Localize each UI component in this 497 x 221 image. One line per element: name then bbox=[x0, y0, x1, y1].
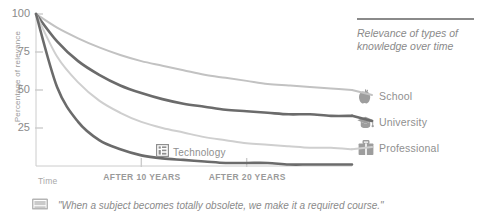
legend-item-professional[interactable]: Professional bbox=[357, 135, 497, 161]
chart-line-university bbox=[36, 14, 352, 116]
title-divider bbox=[357, 18, 474, 20]
legend-item-label: School bbox=[379, 90, 412, 102]
caption-text: "When a subject becomes totally obsolete… bbox=[58, 200, 384, 211]
y-tick-labels: 100755025 bbox=[0, 0, 30, 190]
legend-item-school[interactable]: School bbox=[357, 83, 497, 109]
chart-line-technology bbox=[36, 14, 352, 165]
y-tick-label: 100 bbox=[4, 8, 30, 19]
chart-series-group bbox=[36, 14, 352, 165]
graduation-cap-icon bbox=[357, 113, 374, 132]
book-icon bbox=[32, 196, 48, 214]
legend-item-label: Professional bbox=[379, 142, 439, 154]
x-axis-title: Time bbox=[38, 176, 57, 186]
chart-svg bbox=[0, 0, 360, 190]
y-tick-label: 25 bbox=[4, 122, 30, 133]
legend-item-university[interactable]: University bbox=[357, 109, 497, 135]
briefcase-icon bbox=[357, 139, 374, 158]
x-tick-label: AFTER 20 YEARS bbox=[209, 172, 285, 182]
chart-line-school bbox=[36, 14, 352, 90]
technology-label-text: Technology bbox=[173, 147, 226, 158]
chart-plot-area: Percentage of relevance 100755025 AFTER … bbox=[0, 0, 360, 190]
legend-item-label: University bbox=[379, 116, 427, 128]
y-tick-label: 75 bbox=[4, 46, 30, 57]
chart-legend: SchoolUniversityProfessional bbox=[357, 83, 497, 161]
technology-inline-label: Technology bbox=[156, 143, 226, 161]
caption-row: "When a subject becomes totally obsolete… bbox=[32, 196, 384, 214]
y-tick-label: 50 bbox=[4, 84, 30, 95]
infographic-root: Percentage of relevance 100755025 AFTER … bbox=[0, 0, 497, 221]
x-tick-label: AFTER 10 YEARS bbox=[103, 172, 179, 182]
technology-icon bbox=[156, 143, 169, 161]
chart-title-block: Relevance of types of knowledge over tim… bbox=[357, 18, 493, 54]
page-title: Relevance of types of knowledge over tim… bbox=[357, 27, 493, 54]
apple-icon bbox=[357, 87, 374, 106]
